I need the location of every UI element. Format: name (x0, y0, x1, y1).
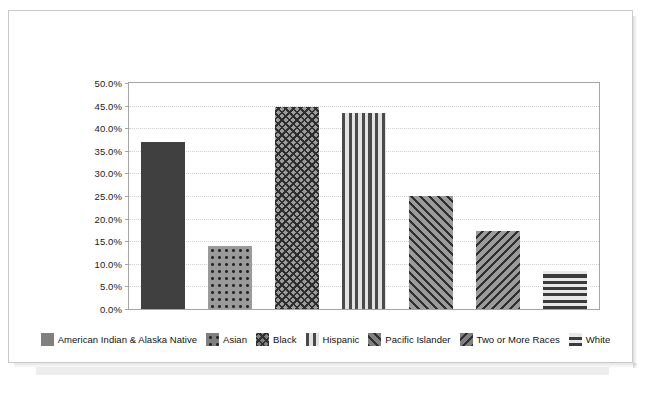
bar-chart: 50.0%45.0%40.0%35.0%30.0%25.0%20.0%15.0%… (120, 73, 600, 321)
y-axis-tick-label: 35.0% (95, 145, 122, 156)
legend-swatch-icon (306, 333, 319, 346)
legend-item-label: Black (273, 334, 296, 345)
y-axis-tick-mark (125, 264, 129, 265)
legend-swatch-icon (41, 333, 54, 346)
document-right-shadow (633, 16, 637, 368)
legend-swatch-icon (368, 333, 381, 346)
y-axis-tick-mark (125, 241, 129, 242)
y-axis-tick-label: 45.0% (95, 100, 122, 111)
y-axis-tick-mark (125, 286, 129, 287)
y-axis-tick-mark (125, 128, 129, 129)
y-axis-tick-mark (125, 309, 129, 310)
y-axis-tick-label: 15.0% (95, 236, 122, 247)
y-axis-tick-label: 50.0% (95, 78, 122, 89)
legend-item-label: Asian (223, 334, 247, 345)
legend-swatch-icon (256, 333, 269, 346)
bar-asian[interactable] (208, 246, 252, 309)
y-axis-tick-label: 30.0% (95, 168, 122, 179)
bar-black[interactable] (275, 107, 319, 309)
bar-white[interactable] (543, 271, 587, 309)
legend-item[interactable]: White (569, 333, 611, 346)
bar-two-or-more-races[interactable] (476, 231, 520, 309)
gridline (129, 106, 599, 107)
legend-item-label: White (586, 334, 611, 345)
y-axis-tick-label: 10.0% (95, 258, 122, 269)
y-axis-tick-mark (125, 106, 129, 107)
y-axis-tick-mark (125, 196, 129, 197)
legend-item-label: Hispanic (323, 334, 360, 345)
y-axis-tick-label: 0.0% (100, 304, 122, 315)
legend-item-label: American Indian & Alaska Native (58, 334, 197, 345)
legend-item-label: Pacific Islander (385, 334, 450, 345)
legend-swatch-icon (206, 333, 219, 346)
y-axis-tick-label: 25.0% (95, 191, 122, 202)
bar-hispanic[interactable] (342, 113, 386, 309)
y-axis-tick-mark (125, 173, 129, 174)
y-axis-tick-label: 40.0% (95, 123, 122, 134)
y-axis-tick-label: 20.0% (95, 213, 122, 224)
bar-american-indian-alaska-native[interactable] (141, 142, 185, 309)
chart-legend: American Indian & Alaska NativeAsianBlac… (9, 333, 634, 346)
legend-item[interactable]: Black (256, 333, 296, 346)
bar-pacific-islander[interactable] (409, 196, 453, 309)
legend-swatch-icon (569, 333, 582, 346)
legend-swatch-icon (460, 333, 473, 346)
legend-item[interactable]: Two or More Races (460, 333, 560, 346)
page-separator-band (36, 367, 609, 375)
y-axis-tick-mark (125, 151, 129, 152)
legend-item-label: Two or More Races (477, 334, 560, 345)
y-axis-tick-label: 5.0% (100, 281, 122, 292)
legend-item[interactable]: Pacific Islander (368, 333, 450, 346)
y-axis-tick-mark (125, 219, 129, 220)
y-axis-tick-mark (125, 83, 129, 84)
legend-item[interactable]: Hispanic (306, 333, 360, 346)
plot-area: 50.0%45.0%40.0%35.0%30.0%25.0%20.0%15.0%… (128, 82, 600, 310)
document-page: 50.0%45.0%40.0%35.0%30.0%25.0%20.0%15.0%… (8, 10, 633, 363)
legend-item[interactable]: Asian (206, 333, 247, 346)
legend-item[interactable]: American Indian & Alaska Native (41, 333, 197, 346)
